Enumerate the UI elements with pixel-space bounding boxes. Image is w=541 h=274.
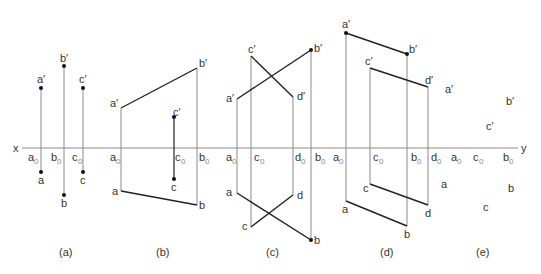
svg-text:c: c: [80, 174, 86, 186]
svg-text:b′: b′: [199, 57, 207, 69]
svg-text:b: b: [508, 182, 514, 194]
svg-text:a′: a′: [110, 97, 118, 109]
svg-text:c′: c′: [486, 120, 494, 132]
caption-d: (d): [380, 246, 393, 258]
svg-text:0: 0: [181, 157, 186, 166]
svg-text:0: 0: [509, 157, 514, 166]
svg-text:0: 0: [457, 157, 462, 166]
orthographic-projection-figure: x y a′ b′ c′ a b c a0 b0 c0 a′ b′ c′ a b…: [0, 0, 541, 274]
svg-text:c′: c′: [248, 43, 256, 55]
svg-text:b: b: [404, 228, 410, 240]
panel-b: a′ b′ c′ a b c a0 c0 b0: [110, 57, 210, 211]
svg-text:a′: a′: [226, 92, 234, 104]
svg-text:b′: b′: [506, 95, 514, 107]
svg-text:0: 0: [417, 157, 422, 166]
axis-x-label: x: [13, 142, 19, 154]
svg-text:c: c: [242, 220, 248, 232]
svg-text:b′: b′: [314, 42, 322, 54]
panel-d: a′ b′ c′ d′ a b c d a0 c0 b0 d0: [333, 18, 442, 240]
svg-text:0: 0: [260, 157, 265, 166]
svg-text:a′: a′: [342, 18, 350, 30]
svg-text:a: a: [38, 174, 45, 186]
axis-y-label: y: [521, 142, 527, 154]
caption-c: (c): [266, 246, 279, 258]
svg-text:a′: a′: [445, 83, 453, 95]
svg-text:0: 0: [78, 157, 83, 166]
svg-text:0: 0: [232, 157, 237, 166]
svg-text:0: 0: [34, 157, 39, 166]
svg-text:c′: c′: [365, 55, 373, 67]
svg-text:d′: d′: [297, 90, 305, 102]
svg-text:c: c: [363, 182, 369, 194]
svg-text:0: 0: [57, 157, 62, 166]
svg-text:0: 0: [321, 157, 326, 166]
svg-text:0: 0: [116, 157, 121, 166]
panel-c: a′ b′ c′ d′ a b c d a0 c0 d0 b0: [226, 42, 326, 246]
svg-text:0: 0: [437, 157, 442, 166]
svg-text:d: d: [425, 207, 431, 219]
svg-text:c′: c′: [79, 73, 87, 85]
svg-text:b′: b′: [409, 43, 417, 55]
svg-text:b: b: [199, 199, 205, 211]
svg-text:0: 0: [339, 157, 344, 166]
caption-a: (a): [59, 246, 72, 258]
svg-text:0: 0: [379, 157, 384, 166]
svg-text:a′: a′: [37, 73, 45, 85]
svg-text:0: 0: [301, 157, 306, 166]
caption-b: (b): [156, 246, 169, 258]
svg-text:c′: c′: [173, 106, 181, 118]
svg-text:b′: b′: [60, 52, 68, 64]
svg-text:a: a: [342, 203, 349, 215]
svg-text:c: c: [483, 201, 489, 213]
caption-e: (e): [476, 246, 489, 258]
svg-text:d: d: [297, 189, 303, 201]
svg-text:c: c: [171, 181, 177, 193]
panel-a: a′ b′ c′ a b c a0 b0 c0: [28, 52, 87, 209]
svg-text:b: b: [314, 234, 320, 246]
svg-text:0: 0: [479, 157, 484, 166]
svg-text:a: a: [441, 178, 448, 190]
svg-text:d′: d′: [425, 74, 433, 86]
svg-text:b: b: [61, 197, 67, 209]
svg-text:0: 0: [205, 157, 210, 166]
svg-text:a: a: [226, 186, 233, 198]
svg-text:a: a: [112, 185, 119, 197]
